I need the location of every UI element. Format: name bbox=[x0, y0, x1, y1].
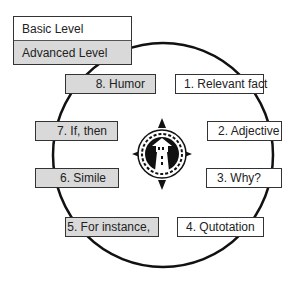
step-6-simile: 6. Simile bbox=[35, 168, 119, 188]
step-7-if-then: 7. If, then bbox=[35, 121, 118, 141]
legend-basic-level: Basic Level bbox=[14, 17, 131, 40]
legend-advanced-level: Advanced Level bbox=[14, 40, 131, 64]
lighthouse-compass-icon bbox=[132, 118, 192, 190]
step-8-humor: 8. Humor bbox=[65, 74, 156, 94]
step-3-why: 3. Why? bbox=[206, 168, 282, 188]
step-4-quotation: 4. Qutotation bbox=[177, 217, 264, 237]
step-2-adjective: 2. Adjective bbox=[207, 121, 282, 141]
legend: Basic Level Advanced Level bbox=[13, 16, 132, 65]
step-5-for-instance: 5. For instance, bbox=[65, 217, 159, 237]
step-1-relevant-fact: 1. Relevant fact bbox=[175, 74, 264, 94]
